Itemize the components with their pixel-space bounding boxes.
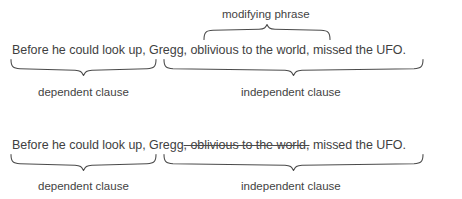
brace-dependent-clause-1 (10, 59, 158, 77)
sentence-2-modifying-phrase-strikethrough: , oblivious to the world, (184, 138, 310, 152)
label-dependent-clause-2: dependent clause (38, 180, 129, 192)
brace-independent-clause-2 (163, 154, 427, 172)
brace-modifying-phrase-1 (203, 24, 331, 40)
sentence-2: Before he could look up, Gregg, obliviou… (12, 138, 406, 152)
brace-independent-clause-1 (163, 59, 427, 77)
sentence-1: Before he could look up, Gregg, obliviou… (12, 43, 406, 57)
sentence-2-independent-head: Gregg (146, 138, 184, 152)
label-modifying-phrase-1: modifying phrase (222, 8, 310, 20)
sentence-2-dependent-clause: Before he could look up, (12, 138, 146, 152)
grammar-diagram: modifying phrase Before he could look up… (0, 0, 462, 199)
sentence-1-modifying-phrase: oblivious to the world, (187, 43, 309, 57)
sentence-2-independent-tail: missed the UFO. (309, 138, 405, 152)
sentence-1-independent-head: Gregg, (146, 43, 187, 57)
label-independent-clause-1: independent clause (241, 86, 341, 98)
label-independent-clause-2: independent clause (241, 180, 341, 192)
sentence-1-independent-tail: missed the UFO. (309, 43, 405, 57)
sentence-1-dependent-clause: Before he could look up, (12, 43, 146, 57)
label-dependent-clause-1: dependent clause (38, 86, 129, 98)
brace-dependent-clause-2 (10, 154, 158, 172)
